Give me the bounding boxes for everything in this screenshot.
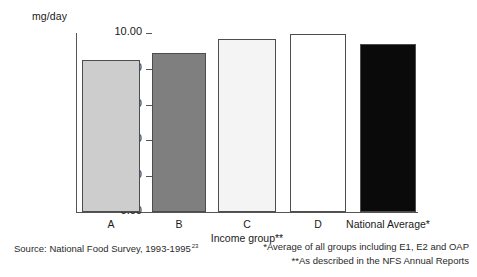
bar xyxy=(218,39,276,212)
x-category-label: National Average* xyxy=(346,218,430,230)
source-note-superscript: 23 xyxy=(192,243,199,249)
x-category-label: B xyxy=(175,218,182,230)
source-note-text: Source: National Food Survey, 1993-1995 xyxy=(14,243,191,254)
footnotes: *Average of all groups including E1, E2 … xyxy=(263,240,469,268)
x-category-label: C xyxy=(243,218,251,230)
x-category-label: A xyxy=(107,218,114,230)
bar xyxy=(290,34,346,212)
y-tick-label: 10.00 xyxy=(114,25,142,37)
footnote-nfs: **As described in the NFS Annual Reports xyxy=(263,254,469,268)
source-note: Source: National Food Survey, 1993-19952… xyxy=(14,243,198,254)
y-tick-mark xyxy=(146,33,152,34)
bar xyxy=(360,44,416,212)
y-tick-mark xyxy=(146,212,152,213)
footnote-average: *Average of all groups including E1, E2 … xyxy=(263,240,469,254)
plot-area: 10.008.006.004.002.000.00 xyxy=(76,33,472,212)
bar xyxy=(82,60,140,212)
y-axis-unit-label: mg/day xyxy=(32,10,67,22)
bar xyxy=(152,53,206,212)
x-category-label: D xyxy=(314,218,322,230)
bar-chart-figure: mg/day 10.008.006.004.002.000.00 ABCDNat… xyxy=(0,0,477,277)
